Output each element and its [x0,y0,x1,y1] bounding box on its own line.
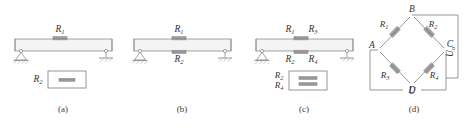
compensation-box-c [289,71,327,90]
label-r2-a: R2 [32,74,43,85]
panel-c: R1 R3 R2 R4 R2 R4 [255,24,355,114]
label-r4-d: R4 [429,70,439,81]
panel-a: R1 R2 (a) [14,24,114,114]
strain-gauge-in-box-c-1 [299,77,317,80]
label-r4-box-c: R4 [274,80,284,91]
panel-b: R1 R2 (b) [133,24,233,114]
label-r1-b: R1 [173,24,183,35]
caption-c: (c) [299,104,309,114]
label-r3-d: R3 [380,70,390,81]
label-r3-c: R3 [307,24,318,35]
support-pin-left-a [14,49,29,63]
figure-strain-gauge-bridges: R1 R2 (a) [0,0,464,133]
label-r1-d: R1 [379,19,389,30]
label-r1-a: R1 [54,24,64,35]
label-r1-c: R1 [284,24,294,35]
strain-gauge-bottom-c [294,50,308,53]
strain-gauge-top-a [53,37,67,40]
strain-gauge-top-c [294,37,308,40]
resistor-r3-d [390,63,401,74]
caption-b: (b) [177,104,188,114]
label-r2-c: R2 [284,54,295,65]
label-r2-d: R2 [428,19,438,30]
support-pin-left-c [255,49,270,63]
node-label-a: A [368,40,375,50]
figure-canvas: R1 R2 (a) [0,0,464,133]
label-r4-c: R4 [307,54,318,65]
beam-c [256,39,353,51]
supply-voltage-label: U [409,86,417,96]
beam-b [134,39,231,51]
caption-d: (d) [409,104,420,114]
beam-a [15,39,112,51]
resistor-r1-d [389,26,400,37]
strain-gauge-in-box-c-2 [299,83,317,86]
strain-gauge-top-b [172,37,186,40]
node-label-b: B [409,4,415,14]
support-pin-left-b [133,49,148,63]
caption-a: (a) [58,104,68,114]
strain-gauge-in-box-a [59,78,75,81]
compensation-box-a [48,71,86,88]
label-r2-b: R2 [173,54,184,65]
panel-d: B A C D R1 R2 R3 R4 U U [368,4,458,114]
